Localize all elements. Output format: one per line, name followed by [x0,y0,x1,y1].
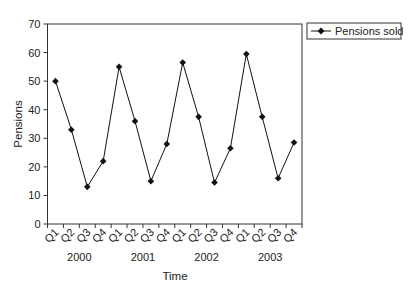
data-point-diamond-icon [68,126,75,133]
data-point-diamond-icon [211,179,218,186]
data-point-diamond-icon [259,114,266,121]
pensions-line-chart: 010203040506070 Q1Q2Q3Q4Q1Q2Q3Q4Q1Q2Q3Q4… [0,0,419,293]
data-point-diamond-icon [84,184,91,191]
legend-label-pensions-sold: Pensions sold [335,25,404,37]
x-axis-title: Time [162,270,187,282]
y-tick-label: 70 [28,18,40,30]
y-axis: 010203040506070 [28,18,47,230]
x-group-label: 2002 [194,251,218,263]
legend: Pensions sold [307,23,404,39]
data-point-diamond-icon [291,139,298,146]
x-group-label: 2003 [258,251,282,263]
x-tick-label: Q4 [281,226,300,245]
y-axis-title: Pensions [12,100,24,148]
data-point-diamond-icon [195,114,202,121]
y-tick-label: 30 [28,132,40,144]
data-point-diamond-icon [179,59,186,66]
series-pensions-sold [52,51,297,190]
y-tick-label: 0 [34,218,40,230]
series-line [56,54,295,187]
x-group-label: 2001 [131,251,155,263]
data-point-diamond-icon [227,145,234,152]
y-tick-label: 50 [28,75,40,87]
data-point-diamond-icon [275,175,282,182]
data-point-diamond-icon [243,51,250,58]
data-point-diamond-icon [52,78,59,85]
data-point-diamond-icon [116,64,123,71]
y-tick-label: 60 [28,47,40,59]
data-point-diamond-icon [100,158,107,165]
y-tick-label: 20 [28,161,40,173]
y-tick-label: 40 [28,104,40,116]
data-point-diamond-icon [132,118,139,125]
x-axis: Q1Q2Q3Q4Q1Q2Q3Q4Q1Q2Q3Q4Q1Q2Q3Q420002001… [42,224,302,263]
data-point-diamond-icon [163,141,170,148]
data-point-diamond-icon [148,178,155,185]
x-group-label: 2000 [67,251,91,263]
y-tick-label: 10 [28,189,40,201]
